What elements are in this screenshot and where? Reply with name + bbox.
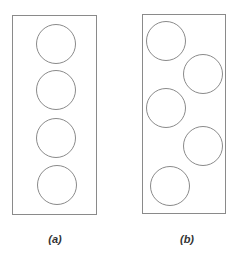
panel-a-circle-4	[38, 166, 77, 205]
panel-a-frame	[13, 16, 97, 215]
panel-a-circle-1	[37, 25, 76, 64]
panel-a-label: (a)	[48, 233, 61, 245]
panel-b-circle-3	[147, 89, 186, 128]
panel-a-circle-3	[37, 119, 76, 158]
panel-b-label: (b)	[180, 233, 194, 245]
panel-a-circle-2	[37, 71, 76, 110]
panel-b-circle-2	[184, 55, 223, 94]
panel-b-circle-4	[184, 127, 223, 166]
panel-b-frame	[143, 15, 226, 214]
panel-b	[143, 15, 226, 214]
panel-a	[13, 16, 97, 215]
packing-diagram	[0, 0, 240, 256]
panel-b-circle-5	[151, 167, 190, 206]
panel-b-circle-1	[147, 22, 186, 61]
